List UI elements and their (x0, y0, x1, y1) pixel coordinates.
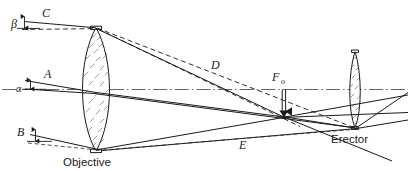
ray-c-to-focus (96, 28, 300, 126)
ray-d-dashed (97, 28, 356, 128)
focal-plane-arrow (279, 90, 288, 118)
objective-lens (83, 26, 110, 152)
objective-lens-label: Objective (63, 156, 111, 168)
angle-label-beta: β (10, 17, 17, 31)
ray-bundle-b (28, 135, 96, 150)
ray-label-b: B (17, 125, 25, 139)
angle-label-alpha: α (16, 83, 22, 94)
b-angle-tick (27, 130, 52, 142)
ray-label-e: E (238, 138, 247, 152)
ray-label-a: A (43, 67, 52, 81)
focal-label-subscript: o (281, 77, 285, 86)
erector-lens-label: Erector (331, 133, 368, 145)
erector-lens (350, 50, 361, 129)
ray-diagram-canvas: C β A α B D E F o Objective Erector (0, 0, 410, 171)
focal-label-f: F (271, 70, 280, 84)
ray-label-d: D (210, 58, 220, 72)
ray-a-to-focus (96, 93, 355, 128)
optical-ray-diagram-figure: C β A α B D E F o Objective Erector (0, 0, 410, 171)
rays-after-erector (356, 93, 408, 129)
ray-label-c: C (42, 6, 51, 20)
alpha-angle-tick (22, 80, 46, 89)
